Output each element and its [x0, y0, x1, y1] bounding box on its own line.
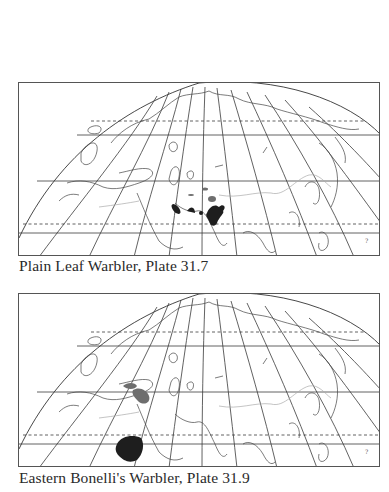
range-map-eastern-bonellis-warbler: ? — [18, 293, 380, 467]
svg-text:?: ? — [365, 237, 368, 244]
map-caption-1: Plain Leaf Warbler, Plate 31.7 — [19, 257, 208, 275]
globe-map-1: ? — [19, 83, 380, 256]
range-patches — [170, 188, 225, 226]
globe-map-2: ? — [19, 294, 380, 467]
range-patches — [116, 383, 150, 462]
svg-text:?: ? — [365, 448, 368, 455]
range-map-plain-leaf-warbler: ? — [18, 82, 380, 256]
map-caption-2: Eastern Bonelli's Warbler, Plate 31.9 — [19, 469, 250, 487]
